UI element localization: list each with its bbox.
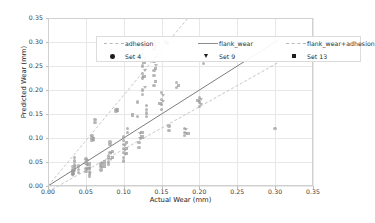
data-point-set-13	[111, 150, 114, 153]
plot-area: 0.000.050.100.150.200.250.300.350.000.05…	[48, 18, 313, 186]
legend-key-icon	[285, 37, 307, 50]
y-tick-label: 0.00	[17, 182, 43, 189]
data-point-set-4	[73, 156, 76, 159]
legend-item-set-9[interactable]: Set 9	[197, 50, 235, 63]
data-point-set-13	[140, 135, 143, 138]
data-point-set-13	[177, 84, 180, 87]
data-point-set-4	[136, 100, 139, 103]
legend-glyph-triangle-down-icon	[204, 54, 208, 58]
data-point-set-4	[73, 159, 76, 162]
legend-glyph-square-icon	[292, 54, 296, 58]
y-tickmark	[46, 66, 49, 67]
x-tick-label: 0.05	[69, 188, 103, 195]
data-point-set-4	[152, 74, 155, 77]
x-tick-label: 0.35	[296, 188, 330, 195]
grid-line-horizontal	[48, 186, 313, 187]
data-point-set-13	[154, 80, 157, 83]
legend-label: flank_wear	[219, 40, 253, 47]
data-point-set-9	[88, 172, 92, 175]
axis-spine-top	[48, 18, 313, 19]
data-point-set-13	[103, 164, 106, 167]
legend-item-flank_wear-adhesion[interactable]: flank_wear+adhesion	[285, 37, 375, 50]
x-tick-label: 0.10	[107, 188, 141, 195]
data-point-set-9	[199, 103, 203, 106]
data-point-set-13	[111, 156, 114, 159]
legend-item-set-13[interactable]: Set 13	[285, 50, 327, 63]
legend-glyph-dashed-icon	[104, 43, 124, 44]
data-point-set-13	[103, 160, 106, 163]
legend-glyph-dashed-icon	[286, 43, 306, 44]
legend-label: flank_wear+adhesion	[307, 40, 375, 47]
data-point-set-13	[131, 113, 134, 116]
data-point-set-4	[137, 146, 140, 149]
data-point-set-9	[184, 128, 188, 131]
x-tick-label: 0.20	[182, 188, 216, 195]
data-point-set-9	[73, 165, 77, 168]
data-point-set-13	[140, 131, 143, 134]
data-point-set-13	[142, 75, 145, 78]
data-point-set-4	[141, 88, 144, 91]
legend-row-markers: Set 4Set 9Set 13	[97, 50, 362, 63]
legend-label: Set 13	[307, 53, 327, 60]
data-point-set-13	[72, 172, 75, 175]
legend-item-adhesion[interactable]: adhesion	[103, 37, 154, 50]
x-tick-label: 0.30	[258, 188, 292, 195]
y-tickmark	[46, 186, 49, 187]
y-axis-label: Predicted Wear (mm)	[20, 12, 28, 152]
x-tick-label: 0.15	[145, 188, 179, 195]
y-tickmark	[46, 162, 49, 163]
legend-key-icon	[103, 37, 125, 50]
legend-glyph-circle-icon	[110, 54, 115, 59]
data-point-set-13	[186, 132, 189, 135]
legend-key-icon	[103, 50, 125, 63]
data-point-set-4	[136, 115, 139, 118]
legend-item-flank_wear[interactable]: flank_wear	[197, 37, 253, 50]
data-point-set-13	[125, 141, 128, 144]
y-tickmark	[46, 114, 49, 115]
data-point-set-13	[87, 167, 90, 170]
legend-key-icon	[285, 50, 307, 63]
y-tick-label: 0.05	[17, 158, 43, 165]
data-point-set-4	[126, 131, 129, 134]
legend-item-set-4[interactable]: Set 4	[103, 50, 141, 63]
data-point-set-13	[116, 108, 119, 111]
axis-spine-left	[48, 18, 49, 186]
fit-line-flank_wear+adhesion	[48, 62, 279, 192]
data-point-set-9	[143, 86, 147, 89]
data-point-set-13	[125, 152, 128, 155]
data-point-set-4	[93, 121, 96, 124]
legend-glyph-solid-icon	[198, 43, 218, 44]
legend-key-icon	[197, 50, 219, 63]
data-point-set-13	[87, 162, 90, 165]
chart-legend[interactable]: adhesionflank_wearflank_wear+adhesion Se…	[96, 36, 361, 62]
data-point-set-4	[108, 140, 111, 143]
data-point-set-4	[141, 64, 144, 67]
x-tick-label: 0.00	[31, 188, 65, 195]
axis-spine-bottom	[48, 185, 313, 186]
legend-label: Set 4	[125, 53, 141, 60]
y-tickmark	[46, 18, 49, 19]
x-axis-label: Actual Wear (mm)	[48, 196, 313, 204]
data-point-set-9	[143, 69, 147, 72]
legend-label: adhesion	[125, 40, 154, 47]
data-point-set-4	[107, 160, 110, 163]
y-tickmark	[46, 42, 49, 43]
data-point-set-13	[154, 67, 157, 70]
legend-row-lines: adhesionflank_wearflank_wear+adhesion	[97, 37, 362, 50]
data-point-set-13	[196, 99, 199, 102]
data-point-set-4	[273, 127, 276, 130]
y-tickmark	[46, 90, 49, 91]
legend-label: Set 9	[219, 53, 235, 60]
x-tick-label: 0.25	[220, 188, 254, 195]
data-point-set-4	[152, 84, 155, 87]
data-point-set-9	[161, 94, 165, 97]
data-point-set-4	[167, 124, 170, 127]
data-point-set-13	[125, 147, 128, 150]
data-point-set-13	[92, 137, 95, 140]
data-point-set-4	[99, 168, 102, 171]
data-point-set-13	[158, 102, 161, 105]
y-tickmark	[46, 138, 49, 139]
legend-key-icon	[197, 37, 219, 50]
